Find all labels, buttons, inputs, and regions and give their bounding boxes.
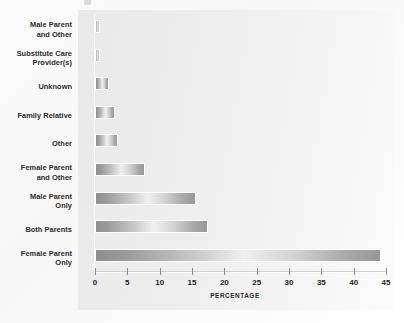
x-axis-tick xyxy=(321,268,322,275)
x-axis-tick-label: 0 xyxy=(93,278,97,287)
x-axis-tick xyxy=(354,268,355,275)
x-axis-tick-label: 15 xyxy=(188,278,197,287)
bar xyxy=(95,134,118,147)
category-label-line: Male Parent xyxy=(0,192,72,201)
category-label-line: Both Parents xyxy=(0,225,72,234)
x-axis-tick xyxy=(257,268,258,275)
category-label-line: Unknown xyxy=(0,82,72,91)
category-label: Substitute CareProvider(s) xyxy=(0,49,72,67)
page-artifact-mark xyxy=(84,0,91,5)
bar xyxy=(95,220,208,233)
category-label-line: Provider(s) xyxy=(0,58,72,67)
category-axis-labels: Male Parentand OtherSubstitute CareProvi… xyxy=(0,10,72,310)
category-label: Female ParentOnly xyxy=(0,249,72,267)
category-label: Male Parentand Other xyxy=(0,20,72,38)
category-label: Male ParentOnly xyxy=(0,192,72,210)
bar xyxy=(95,249,381,262)
x-axis-line xyxy=(95,272,386,273)
category-label-line: Only xyxy=(0,258,72,267)
x-axis-tick-label: 10 xyxy=(155,278,164,287)
category-label-line: Female Parent xyxy=(0,163,72,172)
x-axis-tick-label: 30 xyxy=(285,278,294,287)
x-axis-tick xyxy=(95,268,96,275)
x-axis-title: PERCENTAGE xyxy=(210,292,259,299)
x-axis-tick xyxy=(224,268,225,275)
bar-chart: Male Parentand OtherSubstitute CareProvi… xyxy=(0,0,404,323)
category-label: Both Parents xyxy=(0,225,72,234)
category-label-line: Family Relative xyxy=(0,111,72,120)
x-axis-tick-label: 40 xyxy=(349,278,358,287)
category-label: Family Relative xyxy=(0,111,72,120)
x-axis-tick-label: 45 xyxy=(382,278,391,287)
category-label-line: and Other xyxy=(0,173,72,182)
x-axis-tick xyxy=(386,268,387,275)
category-label-line: Female Parent xyxy=(0,249,72,258)
bar xyxy=(95,77,109,90)
x-axis-tick xyxy=(289,268,290,275)
bar xyxy=(95,49,100,62)
category-label-line: Substitute Care xyxy=(0,49,72,58)
x-axis-tick xyxy=(192,268,193,275)
x-axis-tick-label: 35 xyxy=(317,278,326,287)
y-axis-line xyxy=(94,14,95,272)
category-label-line: Male Parent xyxy=(0,20,72,29)
x-axis-tick-label: 25 xyxy=(252,278,261,287)
category-label: Unknown xyxy=(0,82,72,91)
x-axis-tick-label: 5 xyxy=(125,278,129,287)
category-label-line: Only xyxy=(0,201,72,210)
bar xyxy=(95,106,115,119)
bars-layer xyxy=(95,10,395,272)
category-label-line: and Other xyxy=(0,30,72,39)
x-axis-tick-label: 20 xyxy=(220,278,229,287)
bar xyxy=(95,20,100,33)
x-axis-tick xyxy=(127,268,128,275)
category-label: Other xyxy=(0,139,72,148)
bar xyxy=(95,163,145,176)
category-label: Female Parentand Other xyxy=(0,163,72,181)
bar xyxy=(95,192,196,205)
x-axis-tick xyxy=(160,268,161,275)
category-label-line: Other xyxy=(0,139,72,148)
